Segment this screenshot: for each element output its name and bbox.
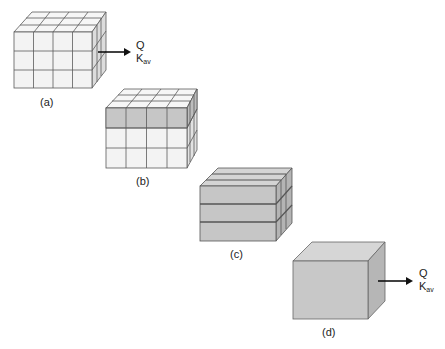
flow-rate-q: Q [419, 267, 434, 280]
panel-label-d: (d) [322, 326, 335, 338]
permeability-kav: Kav [419, 280, 434, 296]
cube-figure [0, 0, 445, 349]
cube-c [200, 168, 292, 241]
flux-label-a: Q Kav [136, 39, 151, 68]
panel-label-b: (b) [136, 175, 149, 187]
panel-label-c: (c) [230, 248, 243, 260]
flow-rate-q: Q [136, 39, 151, 52]
cube-a [14, 12, 106, 88]
panel-label-a: (a) [40, 96, 53, 108]
upscaling-diagram: (a) (b) (c) (d) Q Kav Q Kav [0, 0, 445, 349]
permeability-kav: Kav [136, 52, 151, 68]
flux-label-d: Q Kav [419, 267, 434, 296]
cube-b [106, 89, 197, 168]
cube-d [293, 242, 385, 319]
